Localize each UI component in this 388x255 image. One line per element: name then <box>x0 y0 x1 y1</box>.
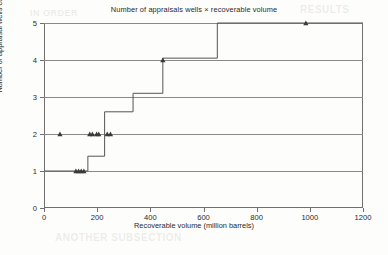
x-tick-mark-1000 <box>310 208 311 212</box>
plot-area: 012345 020040060080010001200 <box>44 23 363 208</box>
x-tick-mark-1200 <box>363 208 364 212</box>
data-marker <box>108 131 113 136</box>
x-tick-mark-0 <box>44 208 45 212</box>
x-tick-mark-800 <box>257 208 258 212</box>
x-tick-mark-600 <box>204 208 205 212</box>
y-axis-title: Number of appraisal wells count <box>0 0 4 115</box>
y-tick-label-2: 2 <box>33 130 37 139</box>
y-tick-label-3: 3 <box>33 93 37 102</box>
x-axis-title: Recoverable volume (million barrels) <box>0 221 388 230</box>
x-tick-mark-400 <box>150 208 151 212</box>
data-series-layer <box>44 23 363 208</box>
y-tick-label-5: 5 <box>33 19 37 28</box>
y-tick-label-4: 4 <box>33 56 37 65</box>
y-tick-label-1: 1 <box>33 167 37 176</box>
chart-figure: RESULTS IN ORDER ANOTHER SUBSECTION Numb… <box>0 0 388 255</box>
step-line <box>44 23 363 171</box>
chart-title: Number of appraisals wells × recoverable… <box>0 5 388 14</box>
y-tick-label-0: 0 <box>33 204 37 213</box>
x-tick-mark-200 <box>97 208 98 212</box>
data-marker <box>57 131 62 136</box>
ghost-text-2: ANOTHER SUBSECTION <box>55 232 182 243</box>
